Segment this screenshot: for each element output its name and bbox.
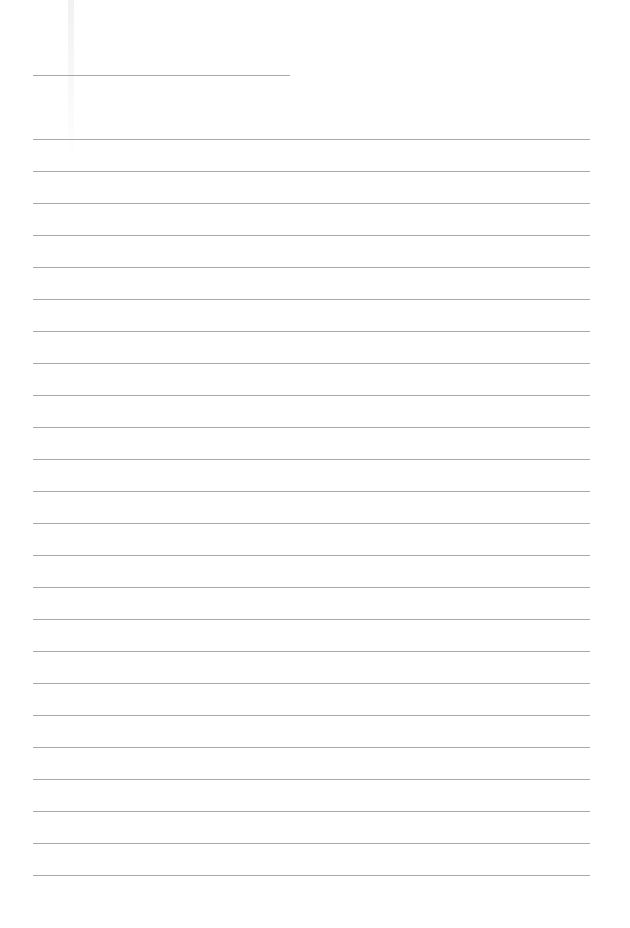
ruled-line[interactable] [33, 619, 590, 620]
ruled-line[interactable] [33, 235, 590, 236]
ruled-line[interactable] [33, 491, 590, 492]
ruled-line[interactable] [33, 203, 590, 204]
ruled-line[interactable] [33, 299, 590, 300]
ruled-line[interactable] [33, 267, 590, 268]
ruled-line[interactable] [33, 811, 590, 812]
ruled-line[interactable] [33, 875, 590, 876]
ruled-line[interactable] [33, 331, 590, 332]
ruled-line[interactable] [33, 363, 590, 364]
ruled-line[interactable] [33, 651, 590, 652]
ruled-line[interactable] [33, 587, 590, 588]
ruled-line[interactable] [33, 555, 590, 556]
ruled-line[interactable] [33, 683, 590, 684]
ruled-line[interactable] [33, 523, 590, 524]
ruled-line[interactable] [33, 171, 590, 172]
ruled-line[interactable] [33, 427, 590, 428]
ruled-line[interactable] [33, 747, 590, 748]
ruled-line[interactable] [33, 459, 590, 460]
ruled-line[interactable] [33, 843, 590, 844]
ruled-line[interactable] [33, 139, 590, 140]
ruled-line[interactable] [33, 779, 590, 780]
ruled-line[interactable] [33, 715, 590, 716]
ruled-lines [0, 0, 630, 928]
ruled-line[interactable] [33, 395, 590, 396]
